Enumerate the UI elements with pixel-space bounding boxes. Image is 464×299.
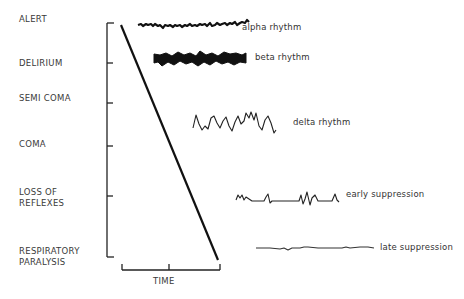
stage-label-text: DELIRIUM	[19, 58, 63, 69]
beta-rhythm-label: beta rhythm	[255, 52, 310, 63]
beta-rhythm-trace	[154, 51, 246, 66]
late-suppression-trace	[256, 247, 374, 250]
stage-label-text: REFLEXES	[19, 198, 64, 209]
stage-label-semi-coma: SEMI COMA	[19, 93, 71, 104]
stage-label-text: ALERT	[19, 14, 47, 25]
stage-label-text: SEMI COMA	[19, 93, 71, 104]
delta-rhythm-label: delta rhythm	[293, 117, 350, 128]
stage-label-text: COMA	[19, 139, 46, 150]
alpha-rhythm-trace	[138, 20, 249, 28]
time-axis-label: TIME	[153, 276, 175, 286]
stage-label-respiratory-paralysis: RESPIRATORY PARALYSIS	[19, 246, 80, 268]
late-suppression-label: late suppression	[380, 242, 453, 253]
time-axis	[122, 264, 220, 270]
early-suppression-trace	[236, 192, 339, 205]
stage-axis	[107, 23, 114, 257]
stage-label-delirium: DELIRIUM	[19, 58, 63, 69]
delta-rhythm-trace	[193, 112, 276, 133]
stage-label-text: LOSS OF	[19, 187, 64, 198]
alpha-rhythm-label: alpha rhythm	[242, 22, 301, 33]
stage-label-loss-of-reflexes: LOSS OF REFLEXES	[19, 187, 64, 209]
stage-label-coma: COMA	[19, 139, 46, 150]
stage-label-text: PARALYSIS	[19, 257, 80, 268]
stage-label-text: RESPIRATORY	[19, 246, 80, 257]
early-suppression-label: early suppression	[346, 189, 424, 200]
stage-label-alert: ALERT	[19, 14, 47, 25]
